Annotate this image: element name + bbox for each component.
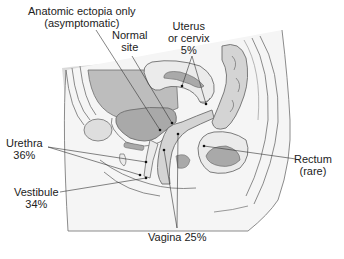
label-ectopia-line1: Anatomic ectopia only xyxy=(28,5,136,17)
label-normal-line1: Normal xyxy=(112,29,147,41)
label-rectum: Rectum (rare) xyxy=(294,153,332,177)
label-urethra-line1: Urethra xyxy=(6,137,43,149)
label-vagina-line1: Vagina 25% xyxy=(148,231,207,243)
label-normal-site: Normal site xyxy=(112,29,147,53)
label-ectopia-line2: (asymptomatic) xyxy=(28,17,136,29)
pelvis-diagram: Anatomic ectopia only (asymptomatic) Nor… xyxy=(0,0,344,259)
label-urethra: Urethra 36% xyxy=(6,137,43,161)
label-vagina: Vagina 25% xyxy=(148,231,207,243)
label-rectum-line1: Rectum xyxy=(294,153,332,165)
label-normal-line2: site xyxy=(112,41,147,53)
label-uterus-line3: 5% xyxy=(168,44,210,56)
label-rectum-line2: (rare) xyxy=(294,165,332,177)
label-uterus-cervix: Uterus or cervix 5% xyxy=(168,20,210,56)
label-vestibule-line2: 34% xyxy=(14,198,59,210)
label-urethra-line2: 36% xyxy=(6,149,43,161)
label-vestibule: Vestibule 34% xyxy=(14,186,59,210)
label-anatomic-ectopia: Anatomic ectopia only (asymptomatic) xyxy=(28,5,136,29)
label-vestibule-line1: Vestibule xyxy=(14,186,59,198)
label-uterus-line1: Uterus xyxy=(168,20,210,32)
label-uterus-line2: or cervix xyxy=(168,32,210,44)
pubic-bone xyxy=(84,119,112,141)
